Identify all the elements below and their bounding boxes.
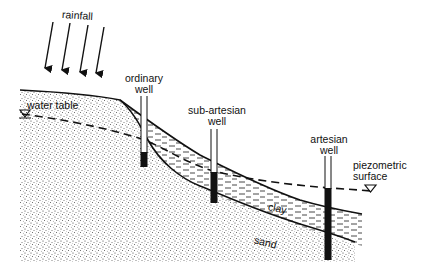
rainfall-arrows — [45, 22, 104, 73]
rainfall-label: rainfall — [62, 9, 94, 22]
sub-artesian-well-label: sub-artesian well — [184, 105, 250, 127]
artesian-well-label: artesian well — [304, 134, 354, 156]
piezometric-surface-label-line2: surface — [353, 171, 407, 182]
artesian-well-label-line2: well — [304, 145, 354, 156]
rain-arrow-icon — [45, 22, 53, 68]
sub-artesian-well-screen — [211, 172, 218, 203]
ordinary-well-label: ordinary well — [118, 73, 170, 95]
sub-artesian-well — [211, 129, 218, 203]
rain-arrow-icon — [62, 23, 70, 70]
rain-arrow-icon — [80, 25, 88, 72]
rain-arrow-icon — [96, 27, 104, 73]
water-table-label: water table — [27, 100, 78, 111]
artesian-well — [325, 156, 332, 260]
sub-artesian-well-label-line2: well — [184, 116, 250, 127]
piezometric-surface-label: piezometric surface — [353, 160, 407, 182]
aquifer-cross-section — [0, 0, 427, 276]
ordinary-well-screen — [141, 152, 148, 167]
artesian-well-screen — [325, 188, 332, 260]
ordinary-well — [141, 96, 148, 167]
ordinary-well-label-line2: well — [118, 84, 170, 95]
